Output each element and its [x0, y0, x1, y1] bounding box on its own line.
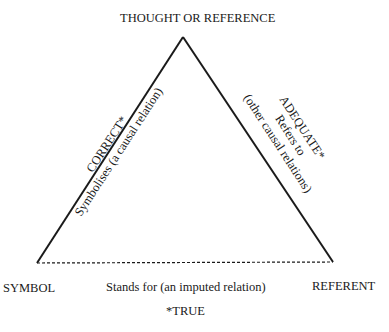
footnote-true: *TRUE — [166, 305, 205, 318]
node-thought-or-reference: THOUGHT OR REFERENCE — [120, 12, 275, 25]
node-referent: REFERENT — [312, 280, 375, 293]
base-relation-label: Stands for (an imputed relation) — [106, 281, 266, 294]
node-symbol: SYMBOL — [3, 282, 55, 295]
edge-symbol-to-referent-dashed — [37, 262, 333, 263]
